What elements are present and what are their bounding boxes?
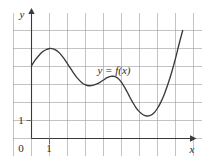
origin-label: 0 [18, 142, 24, 154]
x-tick-label-1: 1 [46, 142, 52, 154]
curve-equation-label: y = f(x) [96, 64, 130, 77]
grid-lines-horizontal [13, 31, 202, 139]
y-axis-label: y [19, 8, 25, 20]
y-tick-label-1: 1 [18, 114, 24, 126]
grid-lines [13, 13, 202, 156]
y-axis-arrowhead [28, 8, 34, 14]
axis-ticks [27, 121, 50, 145]
graph-canvas: y x 0 1 1 y = f(x) [0, 0, 205, 164]
function-graph-figure: y x 0 1 1 y = f(x) [0, 0, 205, 164]
x-axis-label: x [189, 143, 195, 155]
